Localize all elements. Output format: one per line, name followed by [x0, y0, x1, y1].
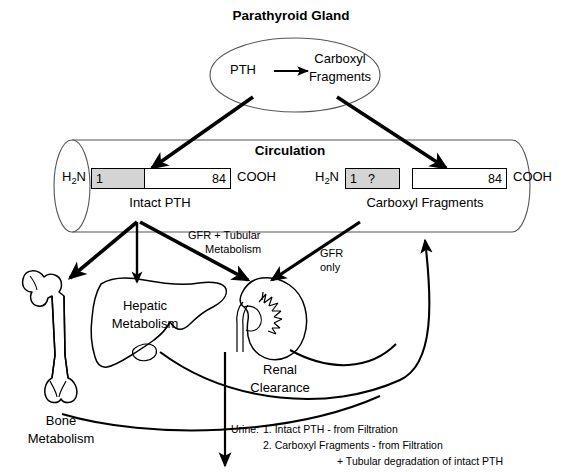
urine-prefix: Urine: — [231, 424, 259, 436]
urine-item-2: 2. Carboxyl Fragments - from Filtration — [263, 440, 443, 452]
diagram-artwork — [0, 0, 582, 472]
bone-label-line2: Metabolism — [6, 432, 116, 447]
intact-n-terminus-sub: 2 — [71, 176, 76, 186]
kidney-illustration — [237, 278, 307, 360]
fragments-shaded-segment: 1 ? — [345, 168, 400, 189]
renal-return-curve — [290, 344, 396, 365]
fragments-end-number: 84 — [488, 172, 502, 186]
intact-pth-white-segment: 84 — [144, 168, 231, 189]
urine-item-1: 1. Intact PTH - from Filtration — [263, 424, 398, 436]
gfr-tubular-label-line2: Metabolism — [205, 243, 261, 255]
liver-label-line2: Metabolism — [90, 317, 200, 332]
intact-pth-start-number: 1 — [96, 172, 103, 186]
gland-carboxyl-label-line2: Fragments — [300, 70, 380, 85]
fragments-n-terminus-n: N — [330, 169, 339, 184]
circulation-label: Circulation — [200, 143, 380, 158]
intact-pth-caption: Intact PTH — [85, 196, 235, 211]
fragments-start-number: 1 — [350, 172, 357, 186]
intact-n-terminus-h: H — [62, 169, 71, 184]
fragments-caption: Carboxyl Fragments — [345, 196, 505, 211]
intact-pth-shaded-segment: 1 — [91, 168, 145, 189]
page-title: Parathyroid Gland — [0, 8, 582, 23]
fragments-unknown-marker: ? — [368, 172, 375, 186]
gfr-tubular-label-line1: GFR + Tubular — [188, 229, 260, 241]
gfr-only-label-line1: GFR — [320, 247, 343, 259]
intact-pth-end-number: 84 — [212, 172, 226, 186]
kidney-label-line2: Clearance — [232, 381, 328, 396]
bone-illustration — [23, 271, 77, 403]
intact-c-terminus: COOH — [237, 170, 276, 185]
liver-label-line1: Hepatic — [100, 299, 190, 314]
fragments-c-terminus: COOH — [513, 170, 552, 185]
bone-label-line1: Bone — [15, 414, 107, 429]
fragments-white-segment: 84 — [412, 168, 507, 189]
gfr-only-label-line2: only — [320, 261, 340, 273]
fragments-n-terminus: H2N — [315, 170, 339, 185]
gland-carboxyl-label-line1: Carboxyl — [300, 52, 380, 67]
intact-n-terminus: H2N — [62, 170, 86, 185]
gland-pth-label: PTH — [230, 63, 256, 78]
circulation-cylinder-cap — [54, 140, 90, 232]
pth-metabolism-diagram: Parathyroid Gland PTH Carboxyl Fragments… — [0, 0, 582, 472]
intact-n-terminus-n: N — [77, 169, 86, 184]
fragments-n-terminus-h: H — [315, 169, 324, 184]
kidney-label-line1: Renal — [240, 363, 320, 378]
fragments-n-terminus-sub: 2 — [324, 176, 329, 186]
urine-item-3: + Tubular degradation of intact PTH — [337, 456, 503, 468]
